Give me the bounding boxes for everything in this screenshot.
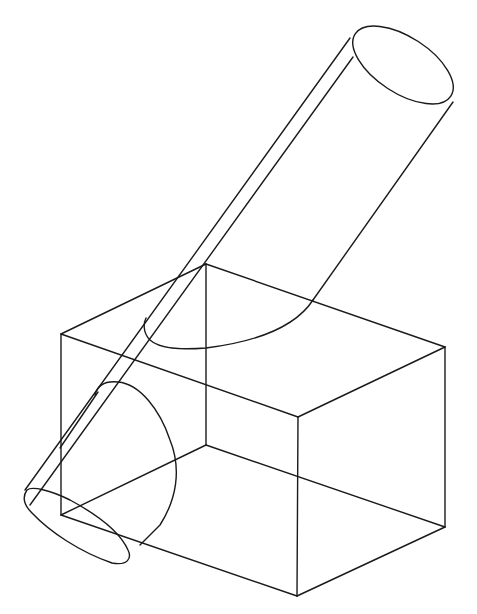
- cylinder-bottom-end: [24, 488, 129, 563]
- cylinder-silhouette-left-inner: [30, 57, 353, 505]
- box-edge-bottom-right-back: [206, 445, 445, 527]
- cylinder-silhouette-left-outer: [25, 38, 350, 490]
- cylinder-wireframe: [24, 10, 466, 563]
- diagram-canvas: [0, 0, 477, 614]
- cylinder-silhouette-right: [313, 102, 453, 300]
- intersection-curve-top-face: [144, 300, 313, 349]
- box-edge-vertical-front: [297, 417, 298, 596]
- cylinder-top-end: [340, 10, 466, 119]
- box-edge-bottom-left-front: [61, 515, 297, 596]
- box-edge-top-left-front: [61, 334, 298, 417]
- cylinder-lower-silhouette: [60, 392, 98, 448]
- box-edge-bottom-front-right: [297, 527, 445, 596]
- box-edge-top-front-right: [298, 347, 445, 417]
- cylinder-box-intersection-drawing: [0, 0, 477, 614]
- box-edge-top-right-back: [206, 264, 445, 347]
- box-wireframe: [61, 264, 445, 596]
- box-edge-bottom-back-left: [61, 445, 206, 515]
- intersection-curve-left-face: [95, 382, 176, 545]
- box-edge-top-back-left: [61, 264, 206, 334]
